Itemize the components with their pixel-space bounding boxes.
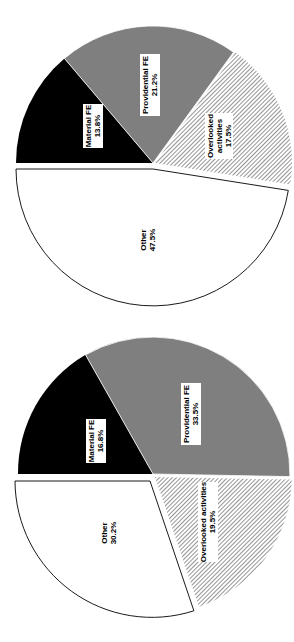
pie-chart-2: Material FE 16.8% Providential FE 33.5% … [15,337,292,617]
svg-text:activities: activities [215,118,224,153]
svg-text:Overlooked: Overlooked [206,114,215,158]
svg-text:Providential FE: Providential FE [141,55,150,114]
label-providential-fe: Providential FE 21.2% [140,54,160,116]
pie-charts: Material FE 13.8% Providential FE 21.2% … [0,0,294,642]
svg-text:17.5%: 17.5% [224,125,233,148]
svg-text:30.2%: 30.2% [109,522,118,545]
svg-text:33.5%: 33.5% [191,403,200,426]
label-material-fe: Material FE 16.8% [86,419,106,463]
svg-text:19.5%: 19.5% [208,511,217,534]
svg-text:Other: Other [100,522,109,543]
svg-text:Providential FE: Providential FE [182,384,191,443]
svg-text:Material FE: Material FE [87,419,96,462]
label-other: Other 30.2% [100,522,118,545]
svg-text:47.5%: 47.5% [148,229,157,252]
svg-text:Material FE: Material FE [84,104,93,147]
pie-chart-1: Material FE 13.8% Providential FE 21.2% … [16,26,292,306]
svg-text:13.8%: 13.8% [93,115,102,138]
svg-text:Other: Other [139,229,148,250]
label-overlooked-activities: Overlooked activities 19.5% [198,481,218,562]
label-overlooked-activities: Overlooked activities 17.5% [205,113,233,159]
label-other: Other 47.5% [139,229,157,252]
label-material-fe: Material FE 13.8% [83,104,103,148]
svg-text:Overlooked activities: Overlooked activities [199,481,208,562]
label-providential-fe: Providential FE 33.5% [181,383,201,445]
svg-text:21.2%: 21.2% [150,74,159,97]
svg-text:16.8%: 16.8% [96,430,105,453]
